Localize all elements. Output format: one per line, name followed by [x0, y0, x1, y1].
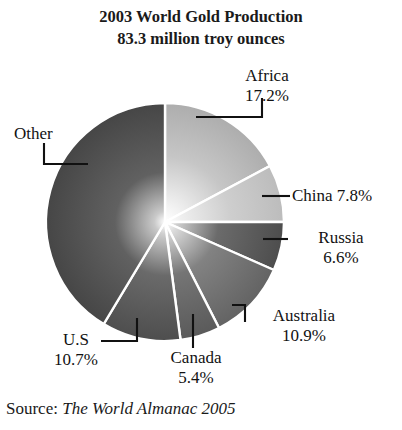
slice-label-australia-name: Australia [273, 306, 335, 325]
slice-label-us-name: U.S [63, 330, 89, 349]
slice-label-china-text: China 7.8% [292, 186, 372, 205]
slice-label-other: Other [14, 124, 53, 144]
slice-label-africa: Africa 17.2% [222, 66, 312, 106]
source-publication: The World Almanac 2005 [62, 399, 235, 418]
slice-label-africa-name: Africa [245, 66, 288, 85]
slice-label-us-value: 10.7% [34, 350, 118, 370]
slice-label-africa-value: 17.2% [222, 86, 312, 106]
slice-label-other-name: Other [14, 124, 53, 143]
slice-label-australia-value: 10.9% [252, 326, 356, 346]
pie-slices [46, 103, 284, 341]
slice-label-australia: Australia 10.9% [252, 306, 356, 346]
slice-label-us: U.S 10.7% [34, 330, 118, 370]
source-note: Source: The World Almanac 2005 [6, 398, 236, 420]
slice-label-canada-name: Canada [171, 348, 222, 367]
slice-label-canada: Canada 5.4% [150, 348, 242, 388]
slice-label-russia-value: 6.6% [298, 248, 384, 268]
pie-chart-figure: 2003 World Gold Production 83.3 million … [0, 0, 402, 430]
slice-label-canada-value: 5.4% [150, 368, 242, 388]
slice-label-china: China 7.8% [292, 186, 372, 206]
source-prefix: Source: [6, 399, 58, 418]
slice-label-russia: Russia 6.6% [298, 228, 384, 268]
slice-label-russia-name: Russia [318, 228, 363, 247]
